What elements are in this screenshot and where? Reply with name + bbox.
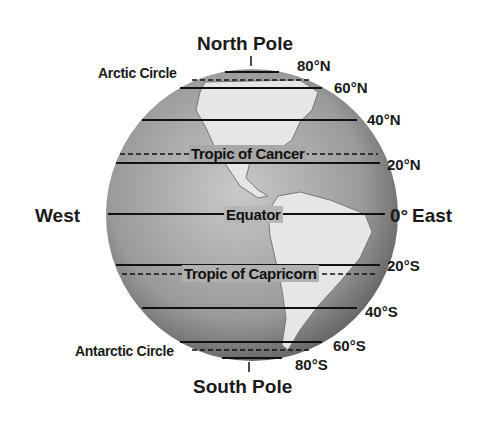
lat-0-label: 0° xyxy=(390,205,408,227)
equator-label: Equator xyxy=(224,206,283,223)
antarctic-circle-label: Antarctic Circle xyxy=(75,343,174,359)
lat-20n-label: 20°N xyxy=(387,156,421,173)
lat-40s-label: 40°S xyxy=(365,303,398,320)
south-pole-label: South Pole xyxy=(193,376,292,398)
lat-40n-label: 40°N xyxy=(367,111,401,128)
west-label: West xyxy=(35,205,80,227)
lat-60s-label: 60°S xyxy=(333,337,366,354)
lat-80n-label: 80°N xyxy=(297,57,331,74)
north-pole-label: North Pole xyxy=(197,33,293,55)
arctic-circle-label: Arctic Circle xyxy=(98,65,177,81)
lat-20s-label: 20°S xyxy=(387,257,420,274)
latitude-diagram: Tropic of Cancer Equator Tropic of Capri… xyxy=(0,0,479,421)
tropic-of-cancer-label: Tropic of Cancer xyxy=(189,145,307,162)
east-label: East xyxy=(412,205,452,227)
lat-60n-label: 60°N xyxy=(334,79,368,96)
tropic-of-capricorn-label: Tropic of Capricorn xyxy=(182,265,319,282)
lat-80s-label: 80°S xyxy=(295,356,328,373)
